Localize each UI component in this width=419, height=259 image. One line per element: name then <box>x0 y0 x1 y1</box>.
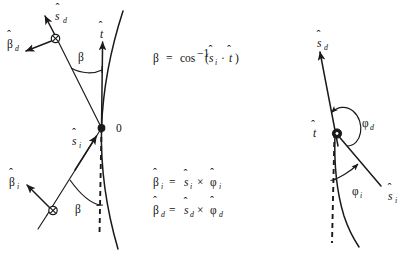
label-t-hat-right: t ̂ <box>311 120 317 139</box>
label-phi-d-subscript: d <box>370 123 374 132</box>
phi-i-arc-tick <box>331 180 337 181</box>
label-s-hat-d-right-accent: ̂ <box>317 30 321 32</box>
label-s-hat-i-right-base: s <box>388 190 393 202</box>
eq-beta-lhs: β <box>153 52 159 65</box>
label-beta-hat-d-accent: ̂ <box>7 30 11 32</box>
label-beta-hat-d-subscript: d <box>15 44 19 53</box>
beta-angle-arc-upper <box>71 68 102 73</box>
right-panel-labels: s ̂ d t ̂ φ d φ i s ̂ i <box>311 30 397 205</box>
eq-beta-dot: · <box>221 52 225 64</box>
eq-beta-t-base: t <box>229 52 233 64</box>
eq-betad-phi-base: φ <box>210 204 217 217</box>
eq-betai-phi-subscript: i <box>219 182 221 191</box>
label-s-hat-i-right: s ̂ i <box>388 183 398 205</box>
label-origin: 0 <box>116 122 122 134</box>
beta-arc-tick-lower <box>97 205 104 206</box>
beta-angle-arc-lower <box>70 180 100 205</box>
eq-betai-lhs-subscript: i <box>161 182 163 191</box>
label-s-hat-i-right-accent: ̂ <box>388 183 392 185</box>
figure-root: s ̂ d β ̂ d t ̂ β 0 s ̂ i <box>0 0 419 259</box>
label-s-hat-d-right-subscript: d <box>324 43 328 52</box>
eq-betad-s-accent: ̂ <box>184 197 188 199</box>
equations: β = cos −1 ( s ̂ i · t ̂ ) β ̂ i = s ̂ <box>153 45 239 219</box>
eq-betai-lhs-accent: ̂ <box>153 168 157 170</box>
eq-betad-s-base: s <box>184 204 189 216</box>
label-beta-upper: β <box>78 51 84 64</box>
s-hat-i-ray-tail-left <box>38 215 47 229</box>
eq-beta-t-accent: ̂ <box>227 45 231 47</box>
equation-beta-d: β ̂ d = s ̂ d × φ ̂ d <box>153 196 223 219</box>
label-s-hat-i-right-subscript: i <box>395 196 397 205</box>
t-hat-out-of-page-icon <box>332 129 341 138</box>
label-s-hat-d-right-base: s <box>317 37 322 49</box>
label-s-hat-d-right: s ̂ d <box>317 30 329 52</box>
label-t-hat-right-accent: ̂ <box>311 120 315 122</box>
equation-beta-definition: β = cos −1 ( s ̂ i · t ̂ ) <box>153 45 239 67</box>
eq-betad-lhs-base: β <box>153 204 159 217</box>
label-beta-hat-i: β ̂ i <box>9 168 19 191</box>
scattering-geometry-diagram: s ̂ d β ̂ d t ̂ β 0 s ̂ i <box>0 0 419 259</box>
label-beta-hat-d: β ̂ d <box>7 30 19 53</box>
phi-hat-d-into-page-icon <box>51 34 59 42</box>
label-s-hat-d-base: s <box>55 10 60 22</box>
label-s-hat-d: s ̂ d <box>55 3 67 26</box>
eq-betad-s-subscript: d <box>190 210 194 219</box>
eq-beta-s-base: s <box>209 52 214 64</box>
eq-betai-cross: × <box>197 176 204 188</box>
eq-beta-paren-close: ) <box>235 52 239 65</box>
eq-betad-phi-subscript: d <box>219 210 223 219</box>
eq-beta-cos: cos <box>180 52 196 64</box>
eq-betai-equals: = <box>169 176 176 188</box>
phi-d-angle-arc <box>332 107 361 146</box>
label-beta-hat-i-accent: ̂ <box>9 168 13 170</box>
label-phi-i-base: φ <box>352 185 359 198</box>
eq-betai-s-accent: ̂ <box>184 169 188 171</box>
label-beta-hat-d-base: β <box>7 38 13 51</box>
eq-beta-s-subscript: i <box>215 58 217 67</box>
label-phi-d: φ d <box>362 117 374 132</box>
label-beta-hat-i-base: β <box>9 176 15 189</box>
label-t-hat-accent: ̂ <box>99 21 103 23</box>
label-s-hat-i-accent: ̂ <box>72 128 76 130</box>
label-phi-d-base: φ <box>362 117 369 130</box>
beta-hat-d-vector-left <box>26 40 54 51</box>
label-s-hat-d-accent: ̂ <box>56 3 60 5</box>
eq-betai-lhs-base: β <box>153 176 159 189</box>
label-t-hat: t ̂ <box>99 21 105 40</box>
eq-betai-s-base: s <box>184 176 189 188</box>
label-s-hat-i-base: s <box>72 135 77 147</box>
eq-betai-phi-accent: ̂ <box>210 168 214 170</box>
beta-hat-i-vector-left <box>27 185 52 210</box>
label-beta-hat-i-subscript: i <box>17 182 19 191</box>
origin-dot <box>98 124 106 132</box>
eq-betad-equals: = <box>169 204 176 216</box>
label-beta-lower: β <box>75 203 81 216</box>
eq-betad-cross: × <box>197 204 204 216</box>
eq-betai-s-subscript: i <box>190 182 192 191</box>
equation-beta-i: β ̂ i = s ̂ i × φ ̂ i <box>153 168 221 191</box>
phi-hat-i-into-page-icon <box>49 206 57 214</box>
label-s-hat-i: s ̂ i <box>72 128 81 150</box>
label-t-hat-base: t <box>100 28 104 40</box>
s-hat-i-vector-right <box>339 136 382 186</box>
right-panel <box>320 52 381 247</box>
label-s-hat-d-subscript: d <box>63 16 67 25</box>
label-phi-i-subscript: i <box>360 191 362 200</box>
eq-beta-equals: = <box>166 52 173 64</box>
label-s-hat-i-subscript: i <box>79 141 81 150</box>
label-t-hat-right-base: t <box>313 127 317 139</box>
eq-betad-lhs-accent: ̂ <box>153 196 157 198</box>
eq-betai-phi-base: φ <box>210 176 217 189</box>
eq-betad-phi-accent: ̂ <box>210 196 214 198</box>
label-phi-i: φ i <box>352 185 362 200</box>
eq-betad-lhs-subscript: d <box>161 210 165 219</box>
